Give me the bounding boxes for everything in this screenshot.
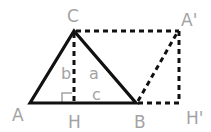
label-C: C xyxy=(67,6,79,26)
triangle-diagram: A B C H A' H' b a c xyxy=(0,0,211,132)
label-A: A xyxy=(12,105,24,125)
label-B: B xyxy=(134,112,146,132)
label-side-b: b xyxy=(61,64,71,83)
triangle-ABC xyxy=(30,31,136,103)
label-side-a: a xyxy=(89,64,99,83)
label-A-prime: A' xyxy=(181,10,197,30)
label-side-c: c xyxy=(92,85,101,104)
label-H: H xyxy=(68,112,81,132)
segment-BA-prime xyxy=(138,33,177,101)
label-H-prime: H' xyxy=(186,108,203,128)
